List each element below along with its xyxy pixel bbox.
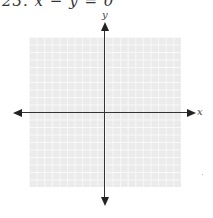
problem-equation: 23. x − y = 0 — [2, 0, 114, 10]
arrow-right-icon — [187, 109, 196, 117]
speck — [202, 174, 203, 175]
arrow-down-icon — [101, 197, 109, 206]
arrow-up-icon — [101, 22, 109, 31]
x-axis — [20, 112, 192, 113]
y-axis-label: y — [102, 9, 108, 20]
arrow-left-icon — [13, 109, 22, 117]
y-axis — [104, 27, 105, 201]
x-axis-label: x — [197, 106, 203, 117]
